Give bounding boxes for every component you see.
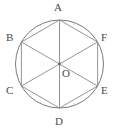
geometry-canvas (0, 0, 120, 132)
center-label-o: O (62, 68, 70, 79)
vertex-label-f: F (101, 32, 107, 43)
vertex-label-c: C (6, 85, 13, 96)
vertex-label-e: E (101, 85, 108, 96)
center-point-dot (58, 63, 61, 66)
geometry-figure: A F E D C B O (0, 0, 120, 132)
vertex-label-d: D (55, 116, 63, 127)
vertex-label-a: A (54, 2, 62, 13)
vertex-label-b: B (6, 32, 13, 43)
